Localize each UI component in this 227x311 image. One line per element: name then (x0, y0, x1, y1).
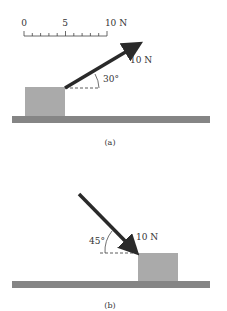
force-diagrams: 0 5 10 N 10 N 30° (a) 10 N 45° (b) (0, 0, 227, 311)
force-arrow (65, 47, 134, 88)
caption: (b) (104, 301, 115, 310)
force-arrow (79, 194, 132, 248)
floor (12, 281, 210, 288)
scale-label-0: 0 (21, 18, 27, 28)
angle-arc (95, 74, 99, 88)
angle-label: 30° (103, 74, 119, 84)
scale-label-10: 10 N (105, 18, 127, 28)
force-label: 10 N (136, 232, 158, 242)
angle-arc (105, 231, 112, 253)
block (138, 253, 178, 281)
scale-label-5: 5 (62, 18, 68, 28)
angle-label: 45° (89, 236, 105, 246)
diagram-b: 10 N 45° (b) (12, 194, 210, 310)
force-label: 10 N (130, 55, 152, 65)
force-scale: 0 5 10 N (21, 18, 127, 36)
block (25, 87, 65, 116)
caption: (a) (104, 138, 115, 147)
floor (12, 116, 210, 123)
diagram-a: 10 N 30° (a) (12, 47, 210, 147)
